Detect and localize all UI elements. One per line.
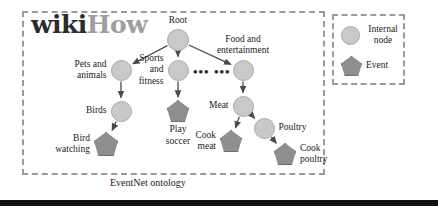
figure-caption: EventNet ontology	[110, 177, 186, 188]
logo-wiki-text: wiki	[31, 10, 87, 39]
tree-node-birds	[111, 101, 132, 122]
node-label-cookmeat: Cook meat	[160, 130, 216, 153]
legend-event-node-label: Event	[366, 60, 404, 71]
tree-node-meat	[233, 96, 254, 117]
node-label-sports: Sports and fitness	[108, 53, 164, 88]
legend-internal-node-label: Internalnode	[362, 24, 404, 46]
legend-internal-line2: node	[374, 35, 392, 45]
node-label-cookpoultry: Cook poultry	[300, 143, 356, 166]
tree-node-poultry	[254, 118, 275, 139]
node-label-root: Root	[150, 15, 206, 27]
logo-how-text: How	[87, 10, 147, 39]
ellipsis-dots: ••• •••	[193, 64, 231, 80]
node-label-birds: Birds	[51, 105, 107, 117]
wikihow-logo: wikiHow	[31, 12, 147, 38]
figure-canvas: wikiHow RootPets and animalsSports and f…	[0, 0, 438, 212]
legend-internal-line1: Internal	[368, 24, 398, 34]
node-label-meat: Meat	[173, 100, 229, 112]
node-label-food: Food and entertainment	[215, 34, 271, 57]
tree-node-sports	[168, 60, 189, 81]
bottom-horizontal-rule	[0, 200, 438, 206]
tree-node-food	[233, 60, 254, 81]
node-label-pets: Pets and animals	[51, 59, 107, 82]
node-label-birdwatching: Bird watching	[34, 133, 90, 156]
tree-node-root	[167, 29, 189, 51]
legend-internal-node-swatch	[341, 26, 360, 45]
node-label-poultry: Poultry	[279, 122, 335, 134]
